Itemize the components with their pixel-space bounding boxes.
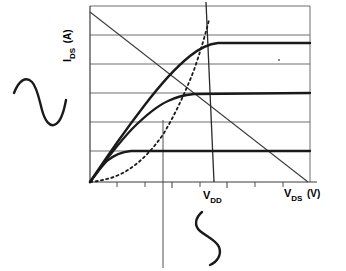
iv-characteristic-figure: IDS (A) VDD VDS (V) <box>0 0 346 271</box>
x-axis-unit: (V) <box>307 188 320 199</box>
vdd-label: VDD <box>203 186 222 205</box>
x-axis-label: VDS (V) <box>284 184 320 203</box>
x-axis-subscript: DS <box>291 194 302 203</box>
sine-wave-input-icon <box>14 79 66 125</box>
sine-wave-output-icon <box>196 212 220 265</box>
y-axis-subscript: DS <box>68 48 77 59</box>
y-axis-label: IDS (A) <box>58 2 72 62</box>
vdd-subscript: DD <box>210 196 222 205</box>
x-axis-ticks <box>117 182 283 188</box>
y-axis-unit: (A) <box>62 29 73 43</box>
y-axis-symbol: I <box>61 59 73 62</box>
id-curve-mid <box>90 93 310 182</box>
stray-speck <box>278 59 280 61</box>
load-line <box>90 12 308 182</box>
plot-canvas <box>0 0 346 271</box>
id-curve-low <box>90 151 310 182</box>
